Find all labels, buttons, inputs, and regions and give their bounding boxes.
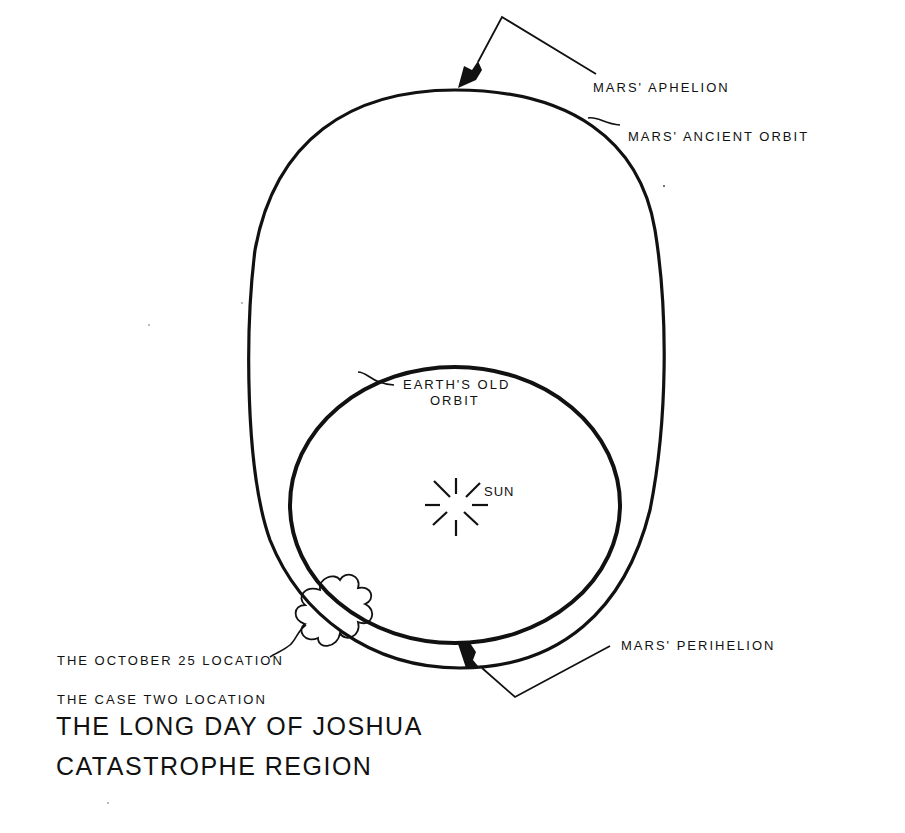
label-october-25-location: THE OCTOBER 25 LOCATION [57,653,284,668]
orbit-diagram [0,0,905,833]
label-sun: SUN [484,484,514,499]
earth-old-orbit [290,367,620,643]
title-line-1: THE LONG DAY OF JOSHUA [56,712,423,741]
label-earth-old-orbit-line1: EARTH'S OLD [403,377,510,392]
sun-icon [425,478,488,536]
title-line-2: CATASTROPHE REGION [56,752,372,781]
label-mars-ancient-orbit: MARS' ANCIENT ORBIT [628,129,809,144]
label-mars-perihelion: MARS' PERIHELION [621,638,775,653]
catastrophe-cloud-icon [296,575,373,646]
label-earth-old-orbit-line2: ORBIT [430,393,480,408]
subtitle-case-two-location: THE CASE TWO LOCATION [57,692,267,707]
perihelion-arrow-icon [458,643,610,697]
aphelion-arrow-icon [458,17,596,88]
label-mars-aphelion: MARS' APHELION [593,80,730,95]
ancient-orbit-leader-line [588,118,620,125]
